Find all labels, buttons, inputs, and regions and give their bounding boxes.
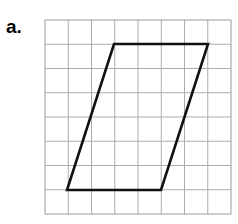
figure-container: a. (0, 0, 238, 224)
grid-figure-svg (0, 0, 238, 224)
